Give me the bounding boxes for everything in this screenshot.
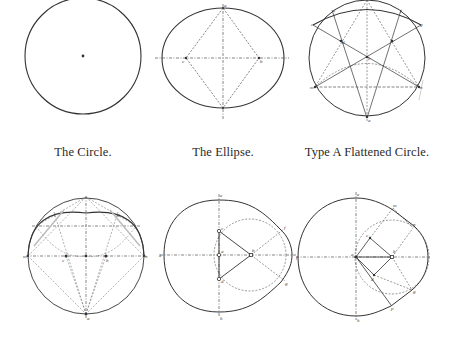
svg-text:m: m (23, 254, 27, 259)
svg-text:e: e (357, 192, 360, 197)
svg-text:c: c (62, 258, 65, 263)
svg-text:b: b (106, 258, 109, 263)
diagram-flattened-circle-a (309, 0, 425, 122)
geometry-figure: a c b c e f g d b m n a m c b n f g a e … (0, 0, 449, 342)
svg-text:a: a (87, 316, 90, 321)
svg-text:d: d (342, 40, 345, 45)
svg-text:n: n (413, 222, 416, 227)
diagram-egg-1 (160, 194, 296, 316)
svg-text:a: a (221, 249, 224, 254)
diagram-egg-2 (296, 192, 430, 320)
svg-text:c: c (221, 226, 224, 231)
svg-text:a: a (368, 118, 371, 123)
svg-text:m: m (310, 85, 314, 90)
caption-ellipse: The Ellipse. (192, 145, 254, 160)
diagram-ellipse (155, 4, 289, 120)
svg-text:e: e (220, 193, 223, 198)
svg-text:h: h (220, 316, 223, 321)
svg-text:h: h (357, 318, 360, 323)
svg-text:c: c (182, 59, 185, 64)
svg-text:c: c (366, 233, 369, 238)
svg-text:p: p (390, 306, 394, 311)
svg-text:b: b (393, 249, 396, 254)
svg-text:k: k (159, 253, 162, 258)
caption-circle: The Circle. (54, 145, 111, 160)
svg-text:a: a (351, 252, 354, 257)
diagram-circle (25, 0, 141, 114)
svg-text:g: g (413, 289, 416, 294)
svg-text:n: n (145, 254, 148, 259)
svg-text:f: f (284, 225, 286, 230)
svg-text:g: g (285, 281, 288, 286)
svg-text:n: n (420, 85, 423, 90)
svg-text:b: b (260, 59, 263, 64)
diagram-flattened-circle-b (26, 196, 146, 318)
svg-text:a: a (224, 3, 227, 8)
caption-flattened-circle-a: Type A Flattened Circle. (305, 145, 429, 160)
svg-text:m: m (393, 203, 397, 208)
svg-text:f: f (400, 8, 402, 13)
svg-text:g: g (420, 22, 423, 27)
